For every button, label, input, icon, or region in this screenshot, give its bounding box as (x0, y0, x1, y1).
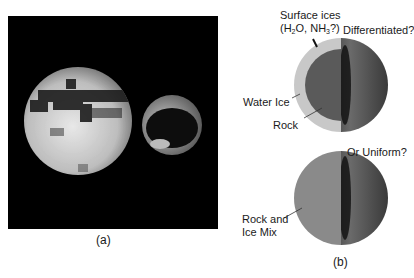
water-ice-label: Water Ice (243, 96, 290, 108)
differentiated-sphere (292, 38, 388, 132)
surface-ices-label: Surface ices (280, 9, 341, 21)
surface-ices-formula: (H2O, NH3?) (280, 22, 340, 34)
rock-label: Rock (273, 119, 298, 131)
mix-label-line2: Ice Mix (242, 226, 277, 238)
uniform-sphere (284, 151, 388, 245)
uniform-title: Or Uniform? (347, 146, 407, 158)
caption-b: (b) (333, 256, 348, 268)
differentiated-title: Differentiated? (343, 24, 414, 36)
mix-label-line1: Rock and (242, 213, 288, 225)
surface-ices-pointer (313, 39, 317, 47)
